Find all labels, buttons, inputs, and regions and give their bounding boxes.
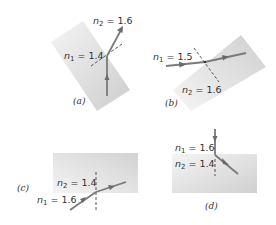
n1-label-c: n1 = 1.6 <box>37 194 77 207</box>
medium-block-b <box>173 35 266 111</box>
refracted-ray-a <box>107 30 121 56</box>
interface-point-b <box>204 61 206 63</box>
arrow-icon <box>179 62 186 68</box>
panel-d: n1 = 1.6 n2 = 1.4 (d) <box>172 129 257 211</box>
caption-d: (d) <box>205 201 218 211</box>
refraction-diagram: n1 = 1.4 n2 = 1.6 (a) n1 = 1.5 n2 = 1.6 … <box>0 0 276 225</box>
incident-ray-b <box>166 62 205 66</box>
n1-label-b: n1 = 1.5 <box>153 51 193 64</box>
caption-c: (c) <box>17 183 30 193</box>
panel-c: n2 = 1.4 n1 = 1.6 (c) <box>17 153 138 211</box>
panel-a: n1 = 1.4 n2 = 1.6 (a) <box>51 15 133 111</box>
caption-b: (b) <box>165 98 178 108</box>
caption-a: (a) <box>73 96 86 106</box>
n1-label-d: n1 = 1.6 <box>175 142 215 155</box>
n2-label-a: n2 = 1.6 <box>93 15 133 28</box>
panel-b: n1 = 1.5 n2 = 1.6 (b) <box>153 35 266 111</box>
